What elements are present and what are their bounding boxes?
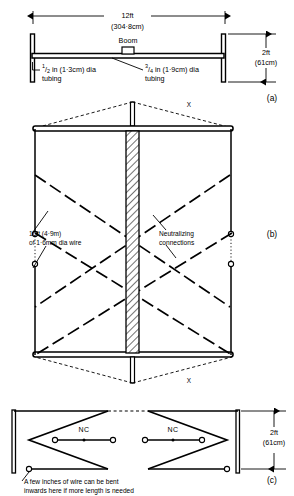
panel-c-bottom-terminal-left bbox=[26, 466, 31, 471]
nc-right-label: NC bbox=[168, 426, 179, 433]
large-tubing-text: in (1·9cm) dia bbox=[153, 65, 199, 74]
neutralizing-line1: Neutralizing bbox=[159, 230, 194, 238]
neutralizing-leader-bottom bbox=[166, 245, 176, 258]
panel-b-x-label-bottom: X bbox=[187, 377, 192, 384]
span-dim-ft: 12ft bbox=[122, 11, 134, 20]
note-line2: inwards here if more length is needed bbox=[24, 487, 134, 495]
bottom-dashed-left bbox=[35, 357, 133, 383]
top-dashed-right bbox=[133, 102, 233, 128]
nc-right-terminal-inner bbox=[142, 437, 147, 442]
nc-left-terminal-inner bbox=[110, 437, 115, 442]
nc-left-label: NC bbox=[79, 426, 90, 433]
panel-a-height-ft: 2ft bbox=[262, 48, 270, 57]
center-mast bbox=[126, 131, 139, 353]
boom-clamp bbox=[122, 47, 134, 54]
neutralizing-line2: connections bbox=[159, 239, 195, 246]
panel-a-group: 12ft (304·8cm) Boom bbox=[31, 11, 278, 103]
panel-a-span-dimension: 12ft (304·8cm) bbox=[33, 11, 225, 31]
antenna-diagram-svg: 12ft (304·8cm) Boom bbox=[0, 0, 294, 496]
panel-c-height-dimension: 2ft (61cm) bbox=[241, 411, 286, 469]
panel-c-note-callout: A few inches of wire can be bent inwards… bbox=[22, 472, 134, 495]
figure-canvas: 12ft (304·8cm) Boom bbox=[0, 0, 294, 496]
nc-right-junction-dot bbox=[172, 439, 175, 442]
panel-b-x-label-top: X bbox=[187, 101, 192, 108]
bottom-dashed-right bbox=[133, 357, 233, 383]
bottom-mast-stub bbox=[131, 357, 135, 383]
wire-length-line1: 16ft (4·9m) bbox=[29, 230, 61, 238]
nc-left-terminal-outer bbox=[52, 437, 57, 442]
nc-right-terminal-outer bbox=[199, 437, 204, 442]
panel-b-group: X bbox=[29, 101, 277, 384]
wire-length-line2: of 1·6mm dia wire bbox=[29, 239, 82, 246]
panel-a-label: (a) bbox=[267, 93, 278, 103]
top-spreader-bar bbox=[33, 126, 233, 131]
panel-b-label: (b) bbox=[267, 229, 278, 239]
panel-a-height-dimension: 2ft (61cm) bbox=[228, 34, 277, 82]
panel-c-group: NC NC A few inches of wire can be bent i… bbox=[12, 410, 286, 495]
panel-c-label: (c) bbox=[267, 475, 277, 485]
top-mast-stub bbox=[131, 102, 135, 126]
nc-left-junction-dot bbox=[83, 439, 86, 442]
large-tubing-text2: tubing bbox=[145, 74, 165, 83]
small-tubing-text: in (1·3cm) dia bbox=[50, 65, 96, 74]
neutralizing-callout: Neutralizing connections bbox=[153, 215, 195, 258]
small-tubing-callout: 1/2 in (1·3cm) dia tubing bbox=[33, 62, 96, 83]
small-tubing-text2: tubing bbox=[42, 74, 62, 83]
panel-c-height-cm: (61cm) bbox=[263, 438, 285, 447]
panel-c-bottom-terminal-right bbox=[224, 466, 229, 471]
boom-label: Boom bbox=[119, 36, 138, 45]
panel-a-height-cm: (61cm) bbox=[255, 58, 277, 67]
top-dashed-left bbox=[35, 102, 133, 128]
panel-c-left-spreader bbox=[12, 410, 16, 473]
panel-c-height-ft: 2ft bbox=[270, 428, 278, 437]
note-line1: A few inches of wire can be bent bbox=[24, 478, 119, 485]
large-tubing-callout: 3/4 in (1·9cm) dia tubing bbox=[112, 58, 199, 83]
span-dim-cm: (304·8cm) bbox=[111, 22, 144, 31]
panel-c-right-spreader bbox=[236, 410, 240, 473]
neutralizing-leader-top bbox=[153, 215, 166, 230]
right-insulator-ring-bottom bbox=[228, 261, 233, 266]
wire-length-callout: 16ft (4·9m) of 1·6mm dia wire bbox=[29, 211, 82, 268]
